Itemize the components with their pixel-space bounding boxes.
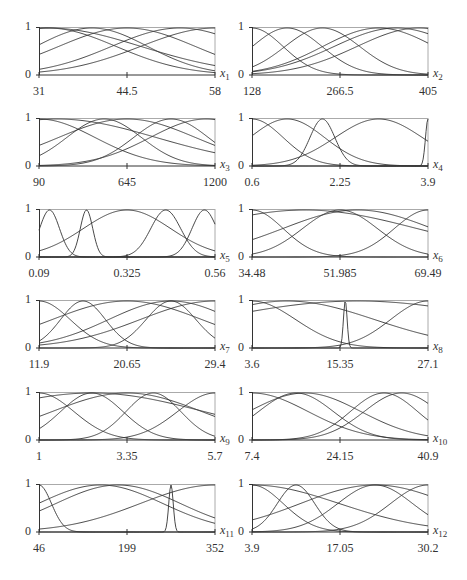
x-tick-label: 5.7 xyxy=(208,449,223,464)
y-tick-label-0: 0 xyxy=(25,524,31,539)
axis-variable-label: x6 xyxy=(433,248,443,264)
membership-curve-mf4 xyxy=(252,28,428,71)
y-tick-label-0: 0 xyxy=(25,432,31,447)
x-tick-label: 199 xyxy=(118,541,136,556)
membership-curve-mf1 xyxy=(39,28,215,73)
membership-curve-mf5 xyxy=(39,210,215,257)
axis-variable-label: x2 xyxy=(433,66,443,82)
y-tick-label-0: 0 xyxy=(25,158,31,173)
y-tick-label-1: 1 xyxy=(238,292,244,307)
x-tick-label: 128 xyxy=(243,84,261,99)
axis-variable-label: x9 xyxy=(220,431,230,447)
y-tick-label-1: 1 xyxy=(238,384,244,399)
membership-curve-mf2 xyxy=(252,301,428,335)
plot-area xyxy=(39,27,217,81)
x-tick-label: 30.2 xyxy=(418,541,439,556)
x-tick-label: 1 xyxy=(36,449,42,464)
x-tick-label: 266.5 xyxy=(327,84,354,99)
x-tick-label: 0.09 xyxy=(29,266,50,281)
membership-curve-mf1 xyxy=(39,393,215,440)
axis-variable-label: x5 xyxy=(220,248,230,264)
axis-variable-label: x3 xyxy=(220,157,230,173)
y-tick-label-0: 0 xyxy=(238,158,244,173)
membership-curve-mf2 xyxy=(39,210,215,257)
membership-curve-mf2 xyxy=(252,393,428,440)
x-tick-label: 44.5 xyxy=(117,84,138,99)
y-tick-label-0: 0 xyxy=(238,524,244,539)
membership-curve-mf1 xyxy=(252,119,428,166)
x-tick-label: 58 xyxy=(209,84,221,99)
plot-area xyxy=(252,118,430,172)
y-tick-label-1: 1 xyxy=(25,201,31,216)
y-tick-label-1: 1 xyxy=(238,19,244,34)
axis-variable-label: x4 xyxy=(433,157,443,173)
plot-area xyxy=(39,300,217,354)
x-tick-label: 17.05 xyxy=(327,541,354,556)
x-tick-label: 1200 xyxy=(203,175,227,190)
y-tick-label-0: 0 xyxy=(238,432,244,447)
x-tick-label: 405 xyxy=(419,84,437,99)
y-tick-label-1: 1 xyxy=(25,110,31,125)
axis-variable-label: x1 xyxy=(220,66,230,82)
x-tick-label: 3.9 xyxy=(245,541,260,556)
x-tick-label: 24.15 xyxy=(327,449,354,464)
membership-curve-mf2 xyxy=(252,485,428,532)
x-tick-label: 11.9 xyxy=(29,357,50,372)
x-tick-label: 51.985 xyxy=(324,266,357,281)
axis-variable-label: x12 xyxy=(433,523,447,539)
y-tick-label-1: 1 xyxy=(238,476,244,491)
membership-curve-mf4 xyxy=(39,393,215,440)
membership-curve-mf6 xyxy=(252,485,428,526)
y-tick-label-1: 1 xyxy=(238,110,244,125)
x-tick-label: 20.65 xyxy=(114,357,141,372)
x-tick-label: 0.56 xyxy=(205,266,226,281)
y-tick-label-0: 0 xyxy=(25,249,31,264)
x-tick-label: 645 xyxy=(118,175,136,190)
x-tick-label: 3.9 xyxy=(421,175,436,190)
x-tick-label: 3.35 xyxy=(117,449,138,464)
x-tick-label: 29.4 xyxy=(205,357,226,372)
membership-curve-mf5 xyxy=(252,485,428,532)
membership-curve-mf3 xyxy=(252,119,428,166)
x-tick-label: 7.4 xyxy=(245,449,260,464)
membership-curve-mf5 xyxy=(39,393,215,440)
membership-curve-mf6 xyxy=(39,28,215,66)
membership-curve-mf3 xyxy=(39,210,215,251)
membership-curve-mf2 xyxy=(252,119,428,166)
membership-curve-mf5 xyxy=(39,485,215,518)
membership-curve-mf2 xyxy=(39,393,215,440)
membership-curve-mf2 xyxy=(39,485,215,523)
membership-curve-mf4 xyxy=(252,119,428,165)
y-tick-label-0: 0 xyxy=(238,249,244,264)
x-tick-label: 46 xyxy=(33,541,45,556)
membership-curve-mf5 xyxy=(252,301,428,311)
membership-curve-mf3 xyxy=(39,119,215,145)
x-tick-label: 69.49 xyxy=(415,266,442,281)
membership-curve-mf4 xyxy=(39,119,215,166)
membership-curve-mf1 xyxy=(252,301,428,348)
y-tick-label-1: 1 xyxy=(25,384,31,399)
membership-curve-mf1 xyxy=(252,485,428,532)
y-tick-label-1: 1 xyxy=(238,201,244,216)
x-tick-label: 34.48 xyxy=(239,266,266,281)
y-tick-label-1: 1 xyxy=(25,476,31,491)
y-tick-label-1: 1 xyxy=(25,19,31,34)
plot-area xyxy=(252,392,430,446)
membership-curve-mf5 xyxy=(39,28,215,72)
membership-curve-mf1 xyxy=(39,210,215,257)
membership-curve-mf4 xyxy=(252,485,428,532)
x-tick-label: 15.35 xyxy=(327,357,354,372)
membership-curve-mf4 xyxy=(252,210,428,231)
y-tick-label-0: 0 xyxy=(25,67,31,82)
x-tick-label: 0.6 xyxy=(245,175,260,190)
plot-area xyxy=(39,484,217,538)
y-tick-label-0: 0 xyxy=(238,340,244,355)
membership-curve-mf3 xyxy=(39,301,215,325)
x-tick-label: 90 xyxy=(33,175,45,190)
plot-area xyxy=(39,392,217,446)
membership-curve-mf2 xyxy=(39,28,215,71)
plot-area xyxy=(39,118,217,172)
x-tick-label: 2.25 xyxy=(330,175,351,190)
y-tick-label-1: 1 xyxy=(25,292,31,307)
plot-area xyxy=(252,484,430,538)
